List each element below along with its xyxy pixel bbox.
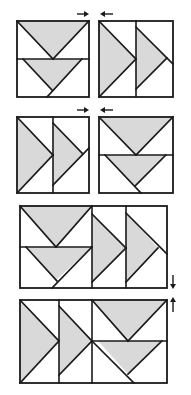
press-right-arrow-icon <box>77 11 89 17</box>
press-down-arrow-icon <box>170 275 176 289</box>
press-left-arrow-icon <box>100 107 113 113</box>
geese-row-3 <box>20 206 167 288</box>
geese-block-down-1 <box>17 21 89 97</box>
press-up-arrow-icon <box>170 297 176 312</box>
geese-block-down-2 <box>99 117 173 193</box>
press-left-arrow-icon <box>100 11 113 17</box>
geese-block-right-1 <box>99 21 173 97</box>
geese-row-4 <box>20 300 167 383</box>
quilt-assembly-diagram <box>0 0 191 395</box>
press-right-arrow-icon <box>77 107 89 113</box>
geese-block-right-2 <box>17 117 89 193</box>
